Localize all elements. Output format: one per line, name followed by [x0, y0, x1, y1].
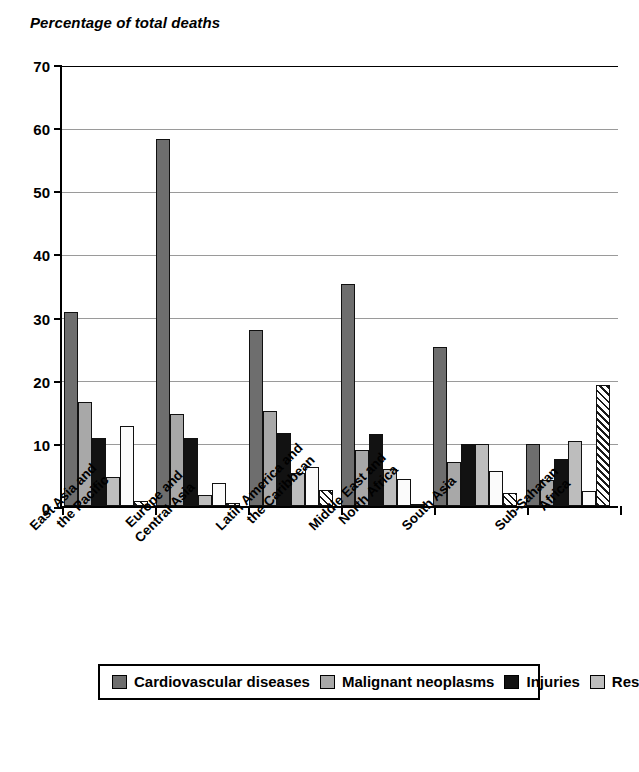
bar[interactable] [156, 139, 170, 506]
series-2-swatch [504, 675, 519, 689]
bar[interactable] [198, 495, 212, 506]
bar[interactable] [596, 385, 610, 506]
y-tick-20 [54, 381, 62, 383]
bar[interactable] [120, 426, 134, 506]
y-tick-label-60: 60 [33, 121, 50, 138]
plot-area: 010203040506070 [60, 66, 618, 508]
bar-group [156, 66, 248, 506]
chart-legend: Cardiovascular diseasesMalignant neoplas… [98, 664, 540, 700]
bar-group [341, 66, 433, 506]
y-tick-label-40: 40 [33, 247, 50, 264]
bar[interactable] [212, 483, 226, 506]
y-tick-label-30: 30 [33, 310, 50, 327]
bar[interactable] [475, 444, 489, 507]
y-tick-70 [54, 65, 62, 67]
bar-group [433, 66, 525, 506]
legend-item-label: Malignant neoplasms [342, 673, 495, 690]
y-tick-label-70: 70 [33, 58, 50, 75]
legend-item-label: Respiratory infections [612, 673, 639, 690]
series-1-swatch [320, 675, 335, 689]
series-0-swatch [112, 675, 127, 689]
y-tick-10 [54, 444, 62, 446]
bar[interactable] [489, 471, 503, 506]
legend-item-label: Cardiovascular diseases [134, 673, 310, 690]
chart-title: Percentage of total deaths [30, 14, 220, 31]
y-tick-30 [54, 318, 62, 320]
bar[interactable] [397, 479, 411, 506]
legend-item[interactable]: Cardiovascular diseases [112, 673, 310, 690]
legend-item[interactable]: Respiratory infections [590, 673, 639, 690]
series-3-swatch [590, 675, 605, 689]
bar-group [526, 66, 618, 506]
plot-wrapper: 010203040506070 [60, 66, 618, 508]
y-tick-label-20: 20 [33, 373, 50, 390]
y-tick-40 [54, 254, 62, 256]
legend-item[interactable]: Malignant neoplasms [320, 673, 495, 690]
y-tick-60 [54, 128, 62, 130]
bar[interactable] [582, 491, 596, 506]
y-tick-50 [54, 191, 62, 193]
y-tick-label-10: 10 [33, 436, 50, 453]
y-tick-label-50: 50 [33, 184, 50, 201]
legend-item-label: Injuries [526, 673, 579, 690]
legend-item[interactable]: Injuries [504, 673, 579, 690]
bar[interactable] [461, 444, 475, 507]
x-axis-labels: East Asia andthe PacificEurope andCentra… [0, 508, 639, 658]
bar-group [64, 66, 156, 506]
bar[interactable] [568, 441, 582, 506]
bar-groups [62, 66, 618, 506]
